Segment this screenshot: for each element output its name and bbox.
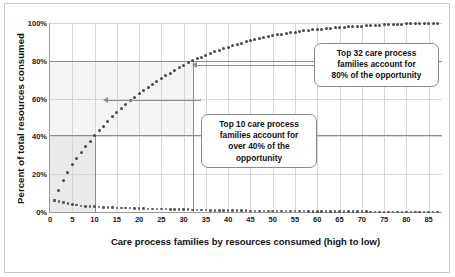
- cumulative-data-point: [405, 22, 408, 25]
- cumulative-data-point: [80, 151, 83, 154]
- individual-data-point: [276, 210, 279, 213]
- cumulative-data-point: [258, 37, 261, 40]
- cumulative-data-point: [356, 25, 359, 28]
- individual-data-point: [200, 209, 203, 212]
- individual-data-point: [71, 203, 74, 206]
- x-axis-tick-label: 30: [179, 215, 187, 224]
- x-axis-tick-label: 15: [113, 215, 121, 224]
- individual-data-point: [124, 207, 127, 210]
- x-axis-tick-label: 5: [70, 215, 74, 224]
- cumulative-data-point: [102, 125, 105, 128]
- individual-data-point: [343, 210, 346, 213]
- cumulative-data-point: [396, 23, 399, 26]
- individual-data-point: [209, 209, 212, 212]
- callout-line: opportunity: [208, 153, 310, 164]
- individual-data-point: [401, 211, 404, 214]
- individual-data-point: [249, 210, 252, 213]
- cumulative-data-point: [427, 22, 430, 25]
- x-axis-tick-label: 70: [358, 215, 366, 224]
- x-axis-tick-label: 60: [313, 215, 321, 224]
- cumulative-data-point: [307, 29, 310, 32]
- individual-data-point: [294, 210, 297, 213]
- individual-data-point: [111, 206, 114, 209]
- cumulative-data-point: [387, 23, 390, 26]
- cumulative-data-point: [285, 32, 288, 35]
- callout-line: Top 32 care process: [321, 48, 432, 59]
- individual-data-point: [214, 209, 217, 212]
- individual-data-point: [173, 208, 176, 211]
- cumulative-data-point: [213, 50, 216, 53]
- individual-data-point: [298, 210, 301, 213]
- cumulative-data-point: [240, 42, 243, 45]
- cumulative-data-point: [325, 27, 328, 30]
- individual-data-point: [369, 211, 372, 214]
- individual-data-point: [84, 205, 87, 208]
- individual-data-point: [410, 211, 413, 214]
- cumulative-data-point: [392, 23, 395, 26]
- individual-data-point: [191, 209, 194, 212]
- individual-data-point: [423, 211, 426, 214]
- x-axis-tick-label: 10: [90, 215, 98, 224]
- callout-line: families account for: [321, 59, 432, 70]
- chart-screenshot: Percent of total resources consumed Care…: [0, 0, 455, 277]
- y-axis-tick-label: 40%: [32, 132, 47, 141]
- cumulative-data-point: [423, 22, 426, 25]
- callout-10-arrowhead: [103, 97, 108, 103]
- callout-line: Top 10 care process: [208, 119, 310, 130]
- cumulative-data-point: [432, 22, 435, 25]
- callout-line: over 40% of the: [208, 141, 310, 152]
- cumulative-data-point: [218, 49, 221, 52]
- cumulative-data-point: [360, 25, 363, 28]
- cumulative-data-point: [89, 140, 92, 143]
- individual-data-point: [405, 211, 408, 214]
- cumulative-data-point: [209, 52, 212, 55]
- cumulative-data-point: [204, 54, 207, 57]
- individual-data-point: [218, 209, 221, 212]
- individual-data-point: [231, 209, 234, 212]
- individual-data-point: [427, 211, 430, 214]
- individual-data-point: [303, 210, 306, 213]
- cumulative-data-point: [289, 31, 292, 34]
- chart-frame: Percent of total resources consumed Care…: [4, 3, 450, 273]
- individual-data-point: [169, 208, 172, 211]
- individual-data-point: [165, 208, 168, 211]
- individual-data-point: [414, 211, 417, 214]
- cumulative-data-point: [294, 31, 297, 34]
- individual-data-point: [383, 211, 386, 214]
- cumulative-data-point: [436, 22, 439, 25]
- ten-families-reference-line: [95, 135, 96, 212]
- individual-data-point: [378, 211, 381, 214]
- cumulative-data-point: [262, 36, 265, 39]
- callout-32-connector: [197, 65, 314, 66]
- individual-data-point: [347, 210, 350, 213]
- cumulative-data-point: [227, 46, 230, 49]
- individual-data-point: [89, 205, 92, 208]
- individual-data-point: [432, 211, 435, 214]
- callout-10-connector: [108, 100, 201, 101]
- individual-data-point: [245, 209, 248, 212]
- cumulative-data-point: [369, 24, 372, 27]
- individual-data-point: [62, 201, 65, 204]
- cumulative-data-point: [374, 24, 377, 27]
- individual-data-point: [320, 210, 323, 213]
- individual-data-point: [258, 210, 261, 213]
- individual-data-point: [285, 210, 288, 213]
- individual-data-point: [187, 208, 190, 211]
- individual-data-point: [182, 208, 185, 211]
- x-axis-tick-label: 20: [135, 215, 143, 224]
- cumulative-data-point: [418, 22, 421, 25]
- cumulative-data-point: [378, 24, 381, 27]
- cumulative-data-point: [200, 56, 203, 59]
- x-axis-tick-label: 35: [202, 215, 210, 224]
- individual-data-point: [98, 206, 101, 209]
- cumulative-data-point: [120, 107, 123, 110]
- cumulative-data-point: [169, 72, 172, 75]
- x-axis-tick-label: 25: [157, 215, 165, 224]
- individual-data-point: [289, 210, 292, 213]
- individual-data-point: [280, 210, 283, 213]
- individual-data-point: [436, 211, 439, 214]
- cumulative-data-point: [343, 26, 346, 29]
- gridline-vertical: [184, 23, 185, 212]
- individual-data-point: [418, 211, 421, 214]
- callout-line: families account for: [208, 130, 310, 141]
